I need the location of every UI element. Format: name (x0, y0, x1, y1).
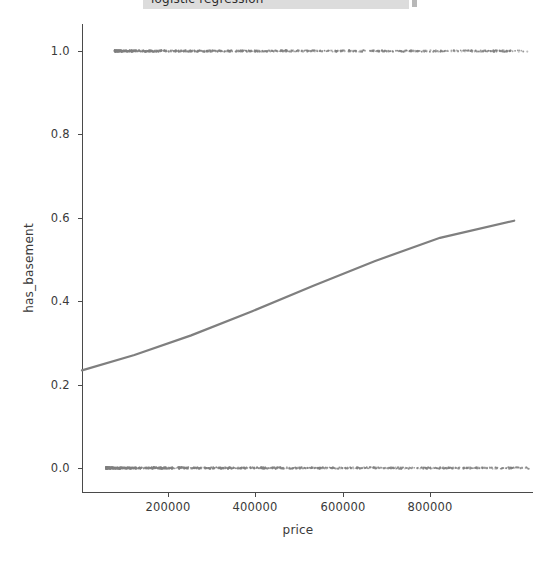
matplotlib-figure: logistic regression 1.0 0.8 0.6 0.4 0.2 … (0, 0, 546, 561)
x-tick-label-800000: 800000 (407, 500, 452, 514)
x-tick-label-200000: 200000 (145, 500, 190, 514)
y-tick-label-0-8: 0.8 (24, 127, 70, 141)
y-axis-spine (82, 24, 83, 493)
y-tick-5 (78, 385, 82, 386)
y-tick-6 (78, 468, 82, 469)
y-tick-2 (78, 134, 82, 135)
scatter-series-has-basement-0 (105, 466, 530, 470)
y-tick-3 (78, 218, 82, 219)
y-tick-label-0-0: 0.0 (24, 461, 70, 475)
y-tick-label-0-2: 0.2 (24, 378, 70, 392)
logistic-fit-line (82, 221, 514, 371)
x-tick-label-400000: 400000 (232, 500, 277, 514)
y-tick-label-1-0: 1.0 (24, 44, 70, 58)
x-tick-800000 (430, 493, 431, 497)
x-axis-title: price (0, 523, 546, 537)
y-tick-1 (78, 51, 82, 52)
x-tick-label-600000: 600000 (320, 500, 365, 514)
cut-off-caption-highlight: logistic regression (143, 0, 409, 9)
x-tick-600000 (343, 493, 344, 497)
scatter-series-has-basement-1 (114, 49, 529, 53)
x-tick-200000 (168, 493, 169, 497)
y-axis-title: has_basement (22, 188, 36, 348)
cut-off-caption-caret-icon (412, 0, 417, 7)
y-tick-4 (78, 301, 82, 302)
cut-off-caption-text: logistic regression (151, 0, 264, 6)
x-tick-400000 (255, 493, 256, 497)
x-axis-spine (82, 492, 533, 493)
x-axis-title-text: price (283, 523, 314, 537)
